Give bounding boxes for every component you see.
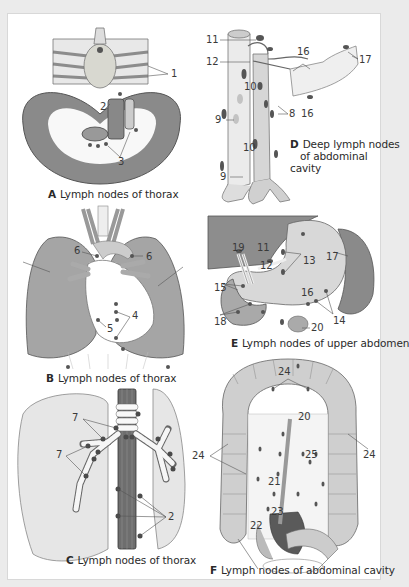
caption-e: ELymph nodes of upper abdomen: [231, 337, 409, 349]
label-11: 11: [257, 243, 270, 253]
caption-c: CLymph nodes of thorax: [66, 554, 196, 566]
panel-f: 24 20 24 24 25 21 22 23 FLymph nodes of …: [198, 354, 382, 581]
label-12: 12: [206, 57, 219, 67]
label-9-top: 9: [215, 115, 221, 125]
label-17: 17: [359, 55, 372, 65]
caption-text: Lymph nodes of thorax: [60, 188, 179, 200]
label-17: 17: [326, 252, 339, 262]
label-2: 2: [168, 512, 174, 522]
label-6-left: 6: [74, 246, 80, 256]
label-20: 20: [311, 323, 324, 333]
label-6-right: 6: [146, 252, 152, 262]
caption-d: DDeep lymph nodes of abdominal cavity: [290, 138, 400, 174]
label-23: 23: [271, 507, 284, 517]
label-14: 14: [333, 316, 346, 326]
label-9-bottom: 9: [220, 172, 226, 182]
label-1: 1: [171, 69, 177, 79]
label-21: 21: [268, 477, 281, 487]
label-11: 11: [206, 35, 219, 45]
caption-letter: C: [66, 554, 74, 566]
label-25: 25: [305, 450, 318, 460]
label-18: 18: [214, 317, 227, 327]
label-13: 13: [303, 256, 316, 266]
figure-card: 1 2 3 ALymph nodes of thorax: [7, 13, 381, 580]
caption-text-line1: Deep lymph nodes: [303, 138, 400, 150]
caption-text: Lymph nodes of upper abdomen: [242, 337, 409, 349]
label-16: 16: [301, 288, 314, 298]
panel-c: 7 7 2 CLymph nodes of thorax: [8, 384, 198, 581]
label-4: 4: [132, 311, 138, 321]
label-22: 22: [250, 521, 263, 531]
label-10-top: 10: [244, 82, 257, 92]
label-16-bottom: 16: [301, 109, 314, 119]
label-2: 2: [100, 102, 106, 112]
stomach-illustration: [198, 204, 382, 354]
label-20: 20: [298, 412, 311, 422]
caption-f: FLymph nodes of abdominal cavity: [210, 564, 395, 576]
caption-letter: F: [210, 564, 217, 576]
panel-b: 6 6 4 5 BLymph nodes of thorax: [8, 204, 198, 379]
caption-letter: E: [231, 337, 238, 349]
label-7-bottom: 7: [56, 450, 62, 460]
label-24-left: 24: [192, 451, 205, 461]
caption-text: Lymph nodes of thorax: [58, 372, 177, 384]
panel-d: 11 12 16 17 10 9 8 16 10 9 DDeep lymph n…: [198, 14, 382, 204]
caption-a: ALymph nodes of thorax: [48, 188, 179, 200]
caption-letter: A: [48, 188, 56, 200]
label-3: 3: [118, 157, 124, 167]
label-24-top: 24: [278, 367, 291, 377]
label-10-bottom: 10: [243, 143, 256, 153]
label-7-top: 7: [72, 413, 78, 423]
label-19: 19: [232, 243, 245, 253]
caption-text: Lymph nodes of abdominal cavity: [221, 564, 395, 576]
panel-e: 19 11 12 13 17 15 16 18 20 14 ELymph nod…: [198, 204, 382, 354]
bronchi-illustration: [8, 384, 198, 581]
label-24-right: 24: [363, 450, 376, 460]
caption-text: Lymph nodes of thorax: [78, 554, 197, 566]
label-12: 12: [260, 261, 273, 271]
panel-a: 1 2 3 ALymph nodes of thorax: [8, 14, 198, 204]
label-15: 15: [214, 283, 227, 293]
caption-letter: D: [290, 138, 299, 150]
label-16-top: 16: [297, 47, 310, 57]
label-5: 5: [107, 324, 113, 334]
label-8: 8: [289, 109, 295, 119]
colon-illustration: [198, 354, 382, 581]
caption-text-line2: of abdominal cavity: [290, 150, 368, 174]
heart-lungs-illustration: [8, 204, 198, 379]
caption-letter: B: [46, 372, 54, 384]
caption-b: BLymph nodes of thorax: [46, 372, 176, 384]
